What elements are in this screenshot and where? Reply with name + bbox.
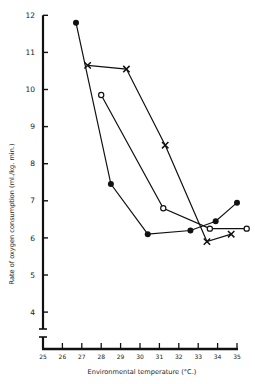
y-tick-label: 10 bbox=[25, 85, 35, 94]
y-tick-label: 12 bbox=[25, 11, 35, 20]
series-line bbox=[88, 65, 232, 241]
x-tick-label: 27 bbox=[78, 353, 86, 360]
y-axis-title: Rate of oxygen consumption (ml./kg. min.… bbox=[8, 143, 16, 284]
x-tick-label: 33 bbox=[194, 353, 202, 360]
cross-marker bbox=[204, 238, 210, 244]
filled-circle-marker bbox=[73, 20, 79, 26]
filled-circle-marker bbox=[213, 218, 219, 224]
x-tick-label: 25 bbox=[39, 353, 47, 360]
y-tick-label: 9 bbox=[30, 122, 35, 131]
series-line bbox=[101, 95, 247, 229]
filled-circle-marker bbox=[234, 200, 240, 206]
series-layer bbox=[73, 20, 249, 245]
y-tick-label: 6 bbox=[30, 234, 35, 243]
x-tick-label: 34 bbox=[214, 353, 222, 360]
cross-marker bbox=[162, 142, 168, 148]
oxygen-consumption-chart: 4567891011122526272829303132333435 Rate … bbox=[0, 0, 255, 384]
y-tick-label: 4 bbox=[30, 308, 35, 317]
axes: 4567891011122526272829303132333435 bbox=[25, 11, 241, 360]
filled-circle-marker bbox=[108, 181, 114, 187]
x-tick-label: 29 bbox=[117, 353, 125, 360]
x-tick-label: 35 bbox=[233, 353, 241, 360]
open-circle-marker bbox=[99, 92, 104, 97]
y-tick-label: 8 bbox=[30, 159, 35, 168]
x-tick-label: 26 bbox=[59, 353, 67, 360]
x-tick-label: 30 bbox=[136, 353, 144, 360]
y-tick-label: 11 bbox=[25, 48, 35, 57]
x-tick-label: 31 bbox=[156, 353, 164, 360]
series-cross bbox=[84, 62, 234, 245]
x-tick-label: 28 bbox=[97, 353, 105, 360]
open-circle-marker bbox=[207, 226, 212, 231]
series-open-circle bbox=[99, 92, 250, 231]
x-tick-label: 32 bbox=[175, 353, 183, 360]
open-circle-marker bbox=[244, 226, 249, 231]
filled-circle-marker bbox=[187, 227, 193, 233]
y-tick-label: 5 bbox=[30, 271, 35, 280]
open-circle-marker bbox=[161, 206, 166, 211]
cross-marker bbox=[228, 231, 234, 237]
x-axis-title: Environmental temperature (°C.) bbox=[88, 368, 197, 376]
y-tick-label: 7 bbox=[30, 196, 35, 205]
filled-circle-marker bbox=[145, 231, 151, 237]
